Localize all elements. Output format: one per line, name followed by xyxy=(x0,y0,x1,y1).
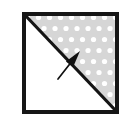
figure-container: Square with diagonal and normal arrow xyxy=(0,0,125,121)
square-diagonal-diagram xyxy=(0,0,125,121)
